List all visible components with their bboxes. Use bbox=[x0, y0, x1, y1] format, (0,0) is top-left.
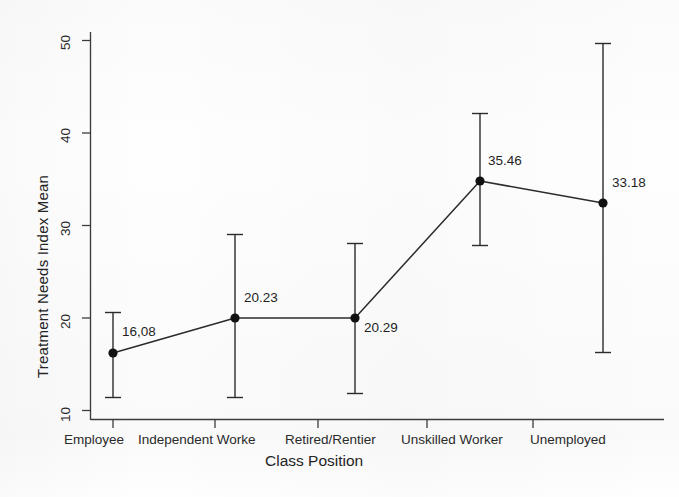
plot-canvas bbox=[0, 0, 679, 497]
x-axis-ticks bbox=[113, 420, 533, 428]
x-axis-title: Class Position bbox=[265, 452, 363, 470]
data-point-unemployed[interactable] bbox=[598, 198, 607, 207]
x-tick-label-employee: Employee bbox=[64, 432, 124, 447]
x-tick-label-unskilled-worker: Unskilled Worker bbox=[401, 432, 503, 447]
error-bars bbox=[105, 43, 611, 398]
y-axis-ticks bbox=[82, 41, 91, 411]
x-tick-label-retired-rentier: Retired/Rentier bbox=[285, 432, 376, 447]
data-label-retired-rentier: 20.29 bbox=[364, 320, 398, 335]
data-label-employee: 16,08 bbox=[122, 324, 156, 339]
data-label-unskilled-worker: 35.46 bbox=[488, 153, 522, 168]
data-point-retired-rentier[interactable] bbox=[350, 313, 359, 322]
x-tick-label-independent-worker: Independent Worke bbox=[138, 432, 256, 447]
axis-lines bbox=[91, 32, 665, 420]
data-point-employee[interactable] bbox=[108, 348, 117, 357]
data-label-unemployed: 33.18 bbox=[612, 175, 646, 190]
data-point-independent-worker[interactable] bbox=[230, 313, 239, 322]
x-tick-label-unemployed: Unemployed bbox=[530, 432, 606, 447]
chart-figure: Treatment Needs Index Mean 50 40 30 20 1… bbox=[0, 0, 679, 497]
error-bar-unemployed bbox=[595, 43, 611, 353]
series-line bbox=[113, 181, 603, 353]
data-markers bbox=[108, 176, 607, 357]
data-label-independent-worker: 20.23 bbox=[244, 290, 278, 305]
data-point-unskilled-worker[interactable] bbox=[475, 176, 484, 185]
